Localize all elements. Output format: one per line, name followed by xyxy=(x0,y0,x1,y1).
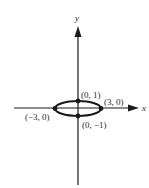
point-left xyxy=(53,106,58,111)
y-axis-label: y xyxy=(74,13,79,23)
point-label-left: (−3, 0) xyxy=(25,112,50,122)
point-label-top: (0, 1) xyxy=(81,90,101,100)
y-axis-arrow-icon xyxy=(75,26,82,37)
point-top xyxy=(76,99,81,104)
ellipse-diagram: y x (0, 1) (3, 0) (−3, 0) (0, −1) xyxy=(0,0,149,188)
point-right xyxy=(99,106,104,111)
x-axis-label: x xyxy=(141,103,146,113)
point-label-right: (3, 0) xyxy=(104,97,124,107)
x-axis-arrow-icon xyxy=(128,105,139,112)
point-label-bottom: (0, −1) xyxy=(82,120,107,130)
point-bottom xyxy=(76,114,81,119)
